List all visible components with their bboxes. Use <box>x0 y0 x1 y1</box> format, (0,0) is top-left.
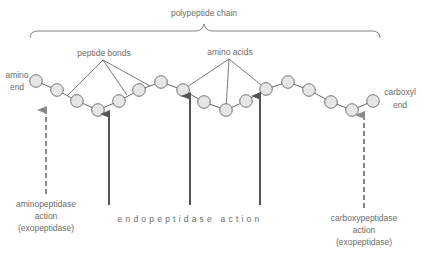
amino-end-label-line1: amino <box>5 70 28 80</box>
amino-acids-label: amino acids <box>207 47 252 57</box>
polypeptide-brace <box>30 24 380 38</box>
amino-acid-14 <box>303 84 316 97</box>
amino-acid-16 <box>346 104 359 117</box>
amino-acid-10 <box>220 104 233 117</box>
carboxypeptidase-label-line2: action <box>353 225 376 235</box>
amino-acid-4 <box>92 104 105 117</box>
amino-acid-2 <box>51 84 64 97</box>
aminopeptidase-label-line1: aminopeptidase <box>16 199 76 209</box>
protease-diagram: polypeptide chain peptide bonds amino ac… <box>0 0 425 261</box>
amino-acid-9 <box>198 96 211 109</box>
amino-acid-pointers <box>184 59 265 109</box>
polypeptide-chain-label: polypeptide chain <box>171 8 237 18</box>
amino-acid-3 <box>71 95 84 108</box>
carboxyl-end-label-line2: end <box>393 100 407 110</box>
amino-end-label-line2: end <box>10 82 24 92</box>
carboxypeptidase-label-line1: carboxypeptidase <box>331 213 398 223</box>
aminopeptidase-label-line2: action <box>35 211 58 221</box>
amino-acid-6 <box>133 84 146 97</box>
amino-acid-13 <box>282 76 295 89</box>
amino-acid-15 <box>325 96 338 109</box>
peptide-bonds-label: peptide bonds <box>77 48 130 58</box>
amino-acid-7 <box>155 76 168 89</box>
amino-acid-17 <box>367 95 380 108</box>
amino-acid-1 <box>30 75 43 88</box>
carboxyl-end-label-line1: carboxyl <box>384 87 416 97</box>
aminopeptidase-label-line3: (exopeptidase) <box>18 223 74 233</box>
endopeptidase-label: endopeptidase action <box>118 214 263 224</box>
carboxypeptidase-label-line3: (exopeptidase) <box>336 237 392 247</box>
amino-acid-12 <box>260 83 273 96</box>
amino-acid-11 <box>240 95 253 108</box>
amino-acid-8 <box>177 84 190 97</box>
amino-acid-5 <box>113 95 126 108</box>
